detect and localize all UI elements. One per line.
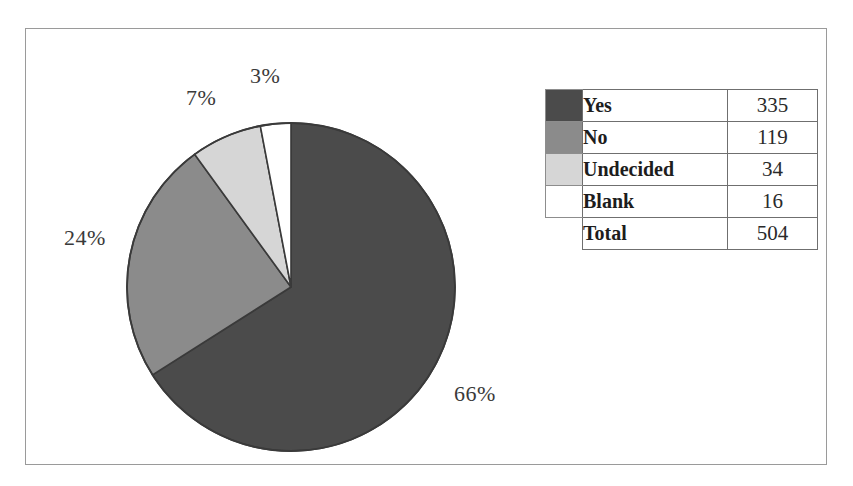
no-percent-label: 24% — [64, 225, 106, 251]
legend-table: Yes 335 No 119 Undecided — [545, 89, 818, 250]
legend-label-yes: Yes — [583, 90, 728, 122]
legend-swatch-blank — [546, 186, 582, 217]
legend-swatch-yes-cell — [546, 90, 583, 122]
legend-table-container: Yes 335 No 119 Undecided — [545, 89, 817, 250]
undecided-percent-label: 7% — [186, 85, 216, 111]
table-row-total: Total 504 — [546, 218, 818, 250]
blank-percent-label: 3% — [250, 63, 280, 89]
legend-swatch-no — [546, 122, 582, 153]
legend-value-undecided: 34 — [728, 154, 818, 186]
legend-swatch-no-cell — [546, 122, 583, 154]
legend-swatch-yes — [546, 90, 582, 121]
pie-chart-figure: 66% 24% 7% 3% Yes 335 — [0, 0, 853, 486]
legend-value-blank: 16 — [728, 186, 818, 218]
legend-swatch-undecided — [546, 154, 582, 185]
table-row[interactable]: Blank 16 — [546, 186, 818, 218]
pie-chart — [125, 121, 457, 453]
legend-swatch-blank-cell — [546, 186, 583, 218]
yes-percent-label: 66% — [454, 381, 496, 407]
legend-value-yes: 335 — [728, 90, 818, 122]
legend-swatch-undecided-cell — [546, 154, 583, 186]
table-row[interactable]: No 119 — [546, 122, 818, 154]
table-row[interactable]: Undecided 34 — [546, 154, 818, 186]
legend-value-total: 504 — [728, 218, 818, 250]
legend-label-no: No — [583, 122, 728, 154]
table-row[interactable]: Yes 335 — [546, 90, 818, 122]
legend-value-no: 119 — [728, 122, 818, 154]
pie-slices — [127, 123, 455, 451]
pie-svg — [125, 121, 457, 453]
legend-label-blank: Blank — [583, 186, 728, 218]
legend-swatch-total-empty — [546, 218, 583, 250]
legend-label-total: Total — [583, 218, 728, 250]
figure-frame: 66% 24% 7% 3% Yes 335 — [25, 28, 827, 465]
legend-label-undecided: Undecided — [583, 154, 728, 186]
